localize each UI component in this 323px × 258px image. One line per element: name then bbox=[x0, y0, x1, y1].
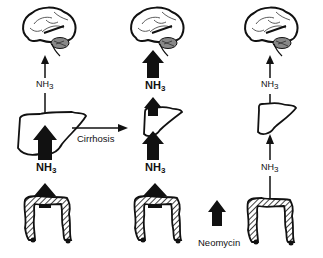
colon-illustration-1 bbox=[24, 196, 71, 244]
colon-illustration-2 bbox=[134, 196, 181, 244]
brain-illustration-1 bbox=[23, 8, 75, 56]
liver-cirrhotic-3 bbox=[258, 103, 296, 134]
thick-arrow-liver-to-brain-2 bbox=[142, 50, 164, 78]
cirrhosis-arrowhead bbox=[118, 124, 128, 132]
ammonia-label-2: NH3 bbox=[145, 80, 165, 93]
brain-illustration-2 bbox=[131, 8, 183, 56]
arrowhead-3 bbox=[266, 55, 274, 64]
colon-illustration-3 bbox=[247, 198, 294, 246]
ammonia-label-gut-1: NH3 bbox=[36, 162, 56, 175]
ammonia-label-gut-2: NH3 bbox=[145, 162, 165, 175]
cirrhosis-label: Cirrhosis bbox=[77, 134, 114, 144]
ammonia-label-gut-3: NH3 bbox=[261, 163, 278, 174]
arrowhead-3b bbox=[266, 134, 274, 144]
arrowhead-1 bbox=[41, 55, 49, 64]
ammonia-label-1: NH3 bbox=[36, 80, 53, 91]
neomycin-label: Neomycin bbox=[198, 238, 240, 248]
ammonia-label-3: NH3 bbox=[261, 80, 278, 91]
brain-illustration-3 bbox=[245, 8, 297, 56]
neomycin-arrow-icon bbox=[208, 200, 226, 226]
diagram-canvas bbox=[0, 0, 323, 258]
